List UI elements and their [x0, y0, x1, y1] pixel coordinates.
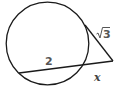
secant-external-label: x	[93, 71, 101, 84]
tangent-radicand-label: 3	[103, 28, 111, 41]
secant-internal-label: 2	[45, 55, 53, 68]
circle	[6, 2, 89, 85]
tangent-label: 3	[97, 28, 111, 42]
geometry-diagram: 2 x 3	[0, 0, 119, 87]
